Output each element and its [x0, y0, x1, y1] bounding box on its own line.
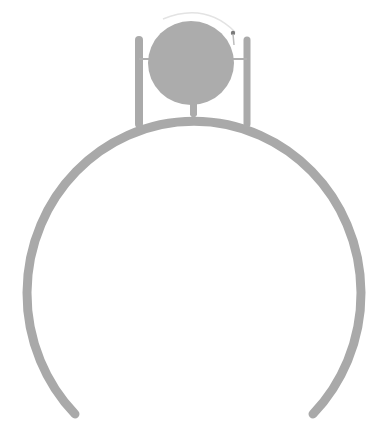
ring-band — [27, 121, 361, 414]
accent-tick — [233, 34, 234, 45]
gem-circle — [148, 21, 234, 105]
ring-icon — [0, 0, 386, 442]
ring-illustration — [0, 0, 386, 442]
